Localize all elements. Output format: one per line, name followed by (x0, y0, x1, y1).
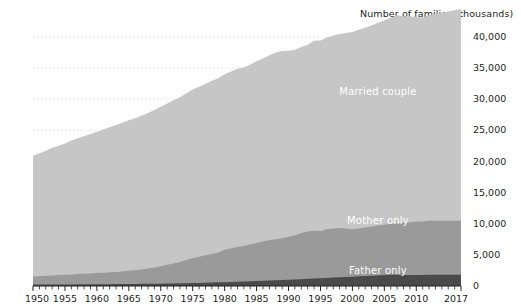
y-axis-tick-label: 20,000 (473, 156, 506, 167)
y-axis-tick-label: 10,000 (473, 218, 506, 229)
x-axis-tick-label: 1970 (149, 293, 173, 304)
chart-plot-area (0, 0, 531, 307)
area-series-group (33, 9, 461, 286)
x-axis-tick-label: 1985 (244, 293, 268, 304)
y-axis-tick-label: 0 (473, 280, 479, 291)
y-axis-tick-label: 30,000 (473, 93, 506, 104)
x-axis-tick-label: 1960 (85, 293, 109, 304)
stacked-area-chart: Number of families (thousands) 40,00035,… (0, 0, 531, 307)
series-label-married-couple: Married couple (339, 86, 416, 97)
y-axis-tick-label: 25,000 (473, 124, 506, 135)
x-axis-tick-label: 1955 (53, 293, 77, 304)
y-axis-tick-label: 40,000 (473, 31, 506, 42)
x-axis-tick-label: 1950 (25, 293, 49, 304)
x-axis-tick-label: 1965 (117, 293, 141, 304)
axis-ticks (33, 286, 461, 291)
x-axis-tick-label: 1980 (213, 293, 237, 304)
x-axis-tick-label: 1975 (181, 293, 205, 304)
series-label-father-only: Father only (349, 265, 407, 276)
y-axis-tick-label: 5,000 (473, 249, 500, 260)
y-axis-tick-label: 15,000 (473, 187, 506, 198)
x-axis-tick-label: 2000 (340, 293, 364, 304)
x-axis-tick-label: 2017 (444, 293, 468, 304)
x-axis-tick-label: 2005 (372, 293, 396, 304)
x-axis-tick-label: 2010 (404, 293, 428, 304)
series-label-mother-only: Mother only (347, 215, 409, 226)
y-axis-tick-label: 35,000 (473, 62, 506, 73)
x-axis-tick-label: 1995 (308, 293, 332, 304)
x-axis-tick-label: 1990 (276, 293, 300, 304)
